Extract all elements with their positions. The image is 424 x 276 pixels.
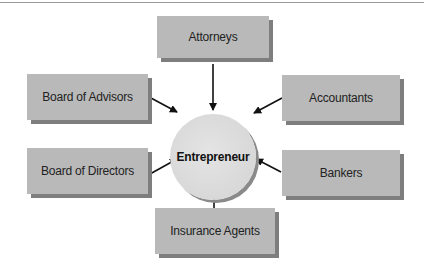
- node-board-of-advisors: Board of Advisors: [27, 74, 148, 120]
- center-node-entrepreneur: Entrepreneur: [170, 114, 256, 200]
- node-label: Attorneys: [189, 30, 238, 44]
- node-insurance-agents: Insurance Agents: [155, 208, 275, 254]
- node-bankers: Bankers: [282, 150, 400, 196]
- node-label: Board of Advisors: [42, 90, 133, 104]
- node-accountants: Accountants: [282, 75, 400, 121]
- node-board-of-directors: Board of Directors: [27, 148, 148, 194]
- node-label: Bankers: [320, 166, 363, 180]
- node-attorneys: Attorneys: [157, 16, 269, 58]
- arrow-bankers: [256, 159, 281, 172]
- center-label: Entrepreneur: [177, 150, 250, 164]
- node-label: Insurance Agents: [170, 224, 260, 238]
- node-label: Board of Directors: [41, 164, 134, 178]
- arrow-board-of-advisors: [151, 98, 177, 112]
- arrow-accountants: [254, 98, 282, 113]
- node-label: Accountants: [309, 91, 373, 105]
